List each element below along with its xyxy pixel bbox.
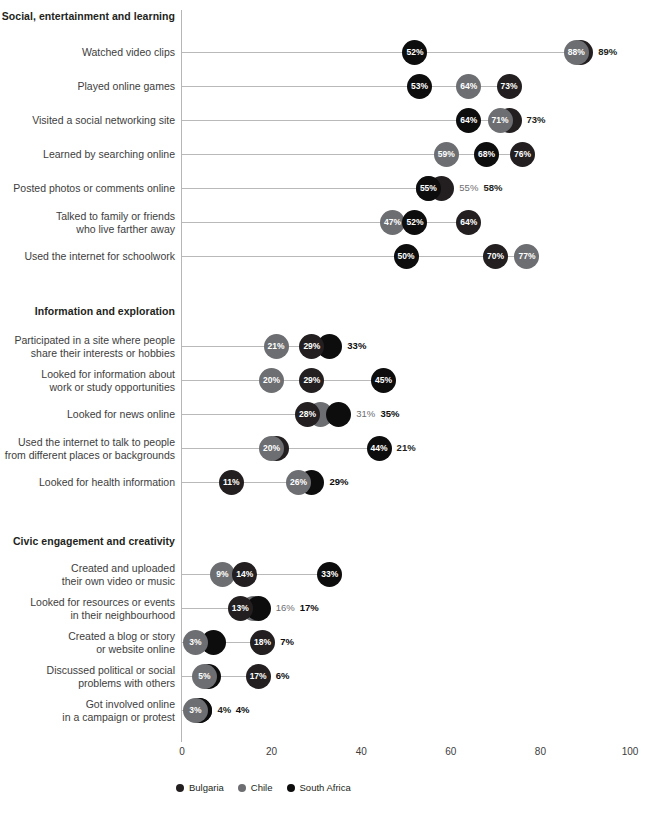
- data-point-outside-label: 29%: [329, 476, 348, 487]
- data-point-value: 50%: [397, 251, 414, 261]
- data-point-dot: 52%: [402, 40, 427, 65]
- data-point-value: 73%: [501, 81, 518, 91]
- data-point-dot: 9%: [210, 562, 235, 587]
- data-point-dot: 70%: [483, 244, 508, 269]
- data-point-outside-label: 35%: [380, 408, 399, 419]
- data-point-value: 64%: [460, 115, 477, 125]
- data-point-dot: 29%: [299, 368, 324, 393]
- data-point-value: 28%: [299, 409, 316, 419]
- legend-item-chile[interactable]: Chile: [238, 782, 273, 793]
- data-point-value: 88%: [568, 47, 585, 57]
- data-point-dot: 53%: [407, 74, 432, 99]
- chart-row: Looked for resources or events in their …: [0, 594, 652, 628]
- row-label: Discussed political or social problems w…: [0, 664, 175, 689]
- data-point-outside-label: 17%: [300, 602, 319, 613]
- data-point-dot: 11%: [219, 470, 244, 495]
- chart-legend: BulgariaChileSouth Africa: [176, 782, 351, 793]
- data-point-value: 64%: [460, 217, 477, 227]
- data-point-dot: 18%: [250, 630, 275, 655]
- data-point-dot: 64%: [456, 108, 481, 133]
- data-point-value: 53%: [411, 81, 428, 91]
- data-point-value: 44%: [371, 443, 388, 453]
- legend-dot-icon: [287, 784, 295, 792]
- legend-item-bulgaria[interactable]: Bulgaria: [176, 782, 224, 793]
- data-point-value: 70%: [487, 251, 504, 261]
- x-axis-tick-label: 0: [179, 746, 185, 757]
- data-point-dot: 50%: [394, 244, 419, 269]
- data-point-value: 52%: [406, 47, 423, 57]
- legend-item-south-africa[interactable]: South Africa: [287, 782, 351, 793]
- chart-row: Visited a social networking site64%71%73…: [0, 106, 652, 140]
- data-point-value: 3%: [189, 705, 201, 715]
- data-point-outside-label: 6%: [276, 670, 290, 681]
- dot-plot-chart: Social, entertainment and learningWatche…: [0, 0, 652, 820]
- data-point-dot: 88%: [564, 40, 589, 65]
- legend-label: South Africa: [300, 782, 351, 793]
- data-point-outside-label: 7%: [280, 636, 294, 647]
- data-point-value: 11%: [223, 477, 240, 487]
- data-point-value: 29%: [303, 341, 320, 351]
- data-point-outside-label: 89%: [598, 46, 617, 57]
- data-point-value: 14%: [236, 569, 253, 579]
- data-point-value: 17%: [250, 671, 267, 681]
- data-point-dot: 17%: [246, 664, 271, 689]
- data-point-value: 55%: [420, 183, 437, 193]
- data-point-outside-label: 73%: [527, 114, 546, 125]
- data-point-outside-label: 58%: [483, 182, 502, 193]
- data-point-value: 68%: [478, 149, 495, 159]
- data-point-value: 33%: [321, 569, 338, 579]
- row-connector-line: [182, 52, 581, 53]
- data-point-value: 29%: [303, 375, 320, 385]
- data-point-dot: 59%: [434, 142, 459, 167]
- row-label: Visited a social networking site: [0, 114, 175, 127]
- data-point-value: 18%: [254, 637, 271, 647]
- data-point-dot: 3%: [183, 698, 208, 723]
- row-connector-line: [182, 256, 527, 257]
- x-axis-tick-label: 20: [266, 746, 277, 757]
- data-point-value: 76%: [514, 149, 531, 159]
- chart-row: Participated in a site where people shar…: [0, 332, 652, 366]
- data-point-value: 71%: [492, 115, 509, 125]
- data-point-dot: 13%: [228, 596, 253, 621]
- data-point-dot: 33%: [317, 562, 342, 587]
- row-connector-line: [182, 154, 522, 155]
- row-label: Created and uploaded their own video or …: [0, 562, 175, 587]
- data-point-outside-label: 33%: [347, 340, 366, 351]
- section-title: Civic engagement and creativity: [13, 535, 175, 547]
- data-point-value: 26%: [290, 477, 307, 487]
- data-point-dot: 28%: [295, 402, 320, 427]
- data-point-value: 9%: [216, 569, 228, 579]
- row-label: Looked for information about work or stu…: [0, 368, 175, 393]
- data-point-outside-label: 21%: [397, 442, 416, 453]
- chart-row: Discussed political or social problems w…: [0, 662, 652, 696]
- data-point-value: 52%: [406, 217, 423, 227]
- row-label: Learned by searching online: [0, 148, 175, 161]
- row-label: Looked for resources or events in their …: [0, 596, 175, 621]
- chart-row: Created and uploaded their own video or …: [0, 560, 652, 594]
- data-point-dot: 52%: [402, 210, 427, 235]
- x-axis: 020406080100: [0, 746, 652, 764]
- chart-row: Looked for health information11%26%29%: [0, 468, 652, 502]
- x-axis-tick-label: 40: [356, 746, 367, 757]
- data-point-dot: 29%: [299, 334, 324, 359]
- data-point-value: 77%: [518, 251, 535, 261]
- row-label: Created a blog or story or website onlin…: [0, 630, 175, 655]
- data-point-dot: 68%: [474, 142, 499, 167]
- data-point-dot: 5%: [192, 664, 217, 689]
- row-label: Got involved online in a campaign or pro…: [0, 698, 175, 723]
- data-point-dot: 3%: [183, 630, 208, 655]
- legend-dot-icon: [176, 784, 184, 792]
- chart-row: Talked to family or friends who live far…: [0, 208, 652, 242]
- row-label: Looked for news online: [0, 408, 175, 421]
- data-point-dot: 20%: [259, 368, 284, 393]
- row-label: Used the internet for schoolwork: [0, 250, 175, 263]
- row-label: Talked to family or friends who live far…: [0, 210, 175, 235]
- data-point-value: 20%: [263, 443, 280, 453]
- data-point-dot: 55%: [416, 176, 441, 201]
- row-connector-line: [182, 188, 442, 189]
- row-label: Looked for health information: [0, 476, 175, 489]
- data-point-value: 3%: [189, 637, 201, 647]
- data-point-dot: [326, 402, 351, 427]
- data-point-outside-label: 16%: [276, 602, 295, 613]
- data-point-value: 45%: [375, 375, 392, 385]
